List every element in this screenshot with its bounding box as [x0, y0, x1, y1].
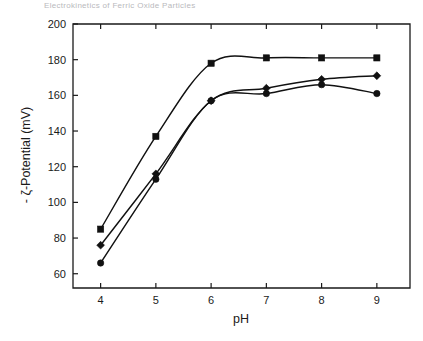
y-tick-label: 100	[48, 196, 66, 208]
data-point-circle	[263, 90, 269, 96]
data-point-circle	[318, 81, 324, 87]
x-tick-label: 6	[208, 294, 214, 306]
series-line-circle	[101, 85, 377, 263]
zeta-potential-ph-plot: 6080100120140160180200456789 pH - ζ-Pote…	[0, 0, 423, 341]
cropped-header-text: Electrokinetics of Ferric Oxide Particle…	[44, 0, 304, 9]
data-point-square	[374, 55, 380, 61]
data-point-square	[263, 55, 269, 61]
data-point-square	[98, 226, 104, 232]
data-series-group	[97, 55, 381, 266]
data-point-circle	[208, 98, 214, 104]
x-axis-title: pH	[233, 312, 249, 326]
data-point-circle	[374, 90, 380, 96]
series-diamond	[97, 72, 381, 249]
data-point-square	[153, 133, 159, 139]
data-point-square	[319, 55, 325, 61]
x-tick-label: 9	[374, 294, 380, 306]
x-tick-label: 5	[153, 294, 159, 306]
axis-box	[73, 24, 410, 288]
data-point-square	[208, 60, 214, 66]
chart-figure: Electrokinetics of Ferric Oxide Particle…	[0, 0, 423, 341]
data-point-diamond	[373, 72, 381, 80]
data-point-circle	[153, 176, 159, 182]
x-tick-label: 4	[98, 294, 104, 306]
series-line-diamond	[101, 76, 377, 245]
series-line-square	[101, 56, 377, 229]
y-tick-label: 80	[54, 232, 66, 244]
y-tick-label: 180	[48, 54, 66, 66]
y-tick-label: 160	[48, 89, 66, 101]
x-tick-label: 7	[263, 294, 269, 306]
y-tick-label: 140	[48, 125, 66, 137]
data-point-circle	[97, 260, 103, 266]
y-tick-label: 200	[48, 18, 66, 30]
series-square	[98, 55, 380, 232]
y-axis-title: - ζ-Potential (mV)	[19, 107, 33, 204]
axis-frame-lines	[73, 24, 410, 288]
x-tick-label: 8	[319, 294, 325, 306]
y-tick-label: 120	[48, 161, 66, 173]
y-tick-label: 60	[54, 268, 66, 280]
series-circle	[97, 81, 380, 266]
axis-ticks	[73, 24, 377, 288]
